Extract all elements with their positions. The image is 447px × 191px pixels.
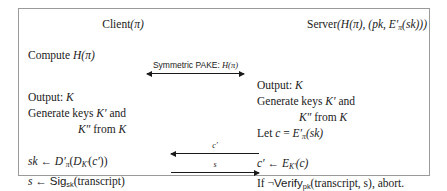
message-signature: s xyxy=(171,156,259,176)
client-generate-source: K xyxy=(118,123,126,135)
message-ciphertext-line xyxy=(171,153,259,154)
message-ciphertext: c′ xyxy=(171,137,259,157)
client-generate-line-2: K″ from K xyxy=(28,121,218,137)
server-let-eq: = xyxy=(283,127,290,139)
server-encrypt-arg: (c) xyxy=(296,157,309,169)
server-verify-line: If ¬Verifypk(transcript, s), abort. xyxy=(257,175,429,184)
arrow-right-icon xyxy=(254,170,260,176)
server-generate-and: and xyxy=(338,95,355,107)
client-decrypt-arrow: ← xyxy=(40,155,52,167)
server-encrypt-line: c′ ← EK′(c) xyxy=(257,155,429,175)
server-encrypt-op: E xyxy=(282,157,289,169)
server-output-line: Output: K xyxy=(257,77,429,93)
server-let-var: c xyxy=(275,127,280,139)
message-symmetric-pake-label: Symmetric PAKE: H(π) xyxy=(147,60,244,70)
client-sign-op: Sig xyxy=(50,175,67,184)
arrow-left-icon xyxy=(146,71,152,77)
client-generate-key2: K″ xyxy=(78,123,90,135)
server-title-tail: (sk))) xyxy=(402,18,427,30)
server-encrypt-arrow: ← xyxy=(268,157,280,169)
server-encrypt-sub: K′ xyxy=(289,162,296,171)
server-title-args: (H(π), (pk, E′ xyxy=(337,18,398,30)
server-generate-key1: K′ xyxy=(325,95,335,107)
server-generate-line-2: K″ from K xyxy=(257,109,429,125)
client-generate-key1: K′ xyxy=(96,107,106,119)
server-verify-sub: pk xyxy=(303,183,311,184)
client-sign-sub: sk xyxy=(66,180,73,184)
client-compute-label: Compute xyxy=(28,49,70,61)
client-output-line: Output: K xyxy=(28,89,218,105)
server-let-enc-arg: (sk) xyxy=(306,127,323,139)
client-output-key: K xyxy=(66,91,74,103)
client-decrypt-outer: D′ xyxy=(55,155,66,167)
client-sign-arrow: ← xyxy=(35,175,47,184)
server-title: Server(H(π), (pk, E′π(sk))) xyxy=(257,9,429,35)
server-output-key: K xyxy=(295,79,303,91)
client-generate-prefix: Generate keys xyxy=(28,107,93,119)
server-generate-from: from xyxy=(314,111,336,123)
message-pake-line xyxy=(147,73,244,74)
client-sign-lhs: s xyxy=(28,175,32,184)
message-signature-line xyxy=(171,172,259,173)
server-generate-prefix: Generate keys xyxy=(257,95,322,107)
server-let-enc: E′ xyxy=(293,127,303,139)
client-decrypt-lhs: sk xyxy=(28,155,38,167)
message-pake-label-text: Symmetric PAKE: xyxy=(153,60,220,70)
server-column: Server(H(π), (pk, E′π(sk))) Output: K Ge… xyxy=(257,9,429,184)
message-signature-label-math: s xyxy=(213,160,216,169)
server-verify-if: If xyxy=(257,177,265,184)
server-generate-source: K xyxy=(339,111,347,123)
client-title-name: Client xyxy=(102,18,130,30)
message-symmetric-pake: Symmetric PAKE: H(π) xyxy=(147,57,244,77)
server-let-line: Let c = E′π(sk) xyxy=(257,125,429,145)
server-output-label: Output: xyxy=(257,79,292,91)
client-output-label: Output: xyxy=(28,91,63,103)
client-generate-and: and xyxy=(109,107,126,119)
client-decrypt-inner-arg: c′ xyxy=(92,155,100,167)
client-generate-from: from xyxy=(93,123,115,135)
client-sign-arg: (transcript) xyxy=(74,175,125,184)
server-verify-args: (transcript, s) xyxy=(311,177,372,184)
message-pake-label-math: H(π) xyxy=(222,60,238,70)
client-title-arg: (π) xyxy=(130,18,143,30)
client-decrypt-inner: D xyxy=(73,155,81,167)
server-title-name: Server xyxy=(307,18,337,30)
arrow-right-icon xyxy=(239,71,245,77)
server-verify-tail: , abort. xyxy=(372,177,404,184)
protocol-diagram: Client(π) Compute H(π) Output: K Generat… xyxy=(18,8,430,176)
server-verify-op: Verify xyxy=(274,177,303,184)
client-compute-arg: H(π) xyxy=(73,49,95,61)
message-ciphertext-label: c′ xyxy=(171,141,259,151)
server-generate-line-1: Generate keys K′ and xyxy=(257,93,429,109)
client-generate-line-1: Generate keys K′ and xyxy=(28,105,218,121)
message-ciphertext-label-math: c′ xyxy=(212,141,217,150)
server-generate-key2: K″ xyxy=(299,111,311,123)
message-signature-label: s xyxy=(171,160,259,170)
client-title: Client(π) xyxy=(28,9,218,31)
server-let-prefix: Let xyxy=(257,127,272,139)
